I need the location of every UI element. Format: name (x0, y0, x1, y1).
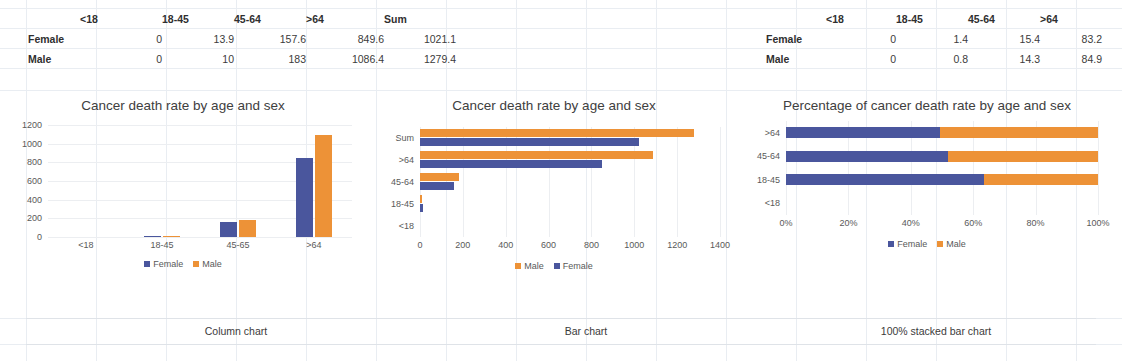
xtick-100%: 100% (1086, 218, 1109, 228)
cell-female-pct-18-45[interactable]: 1.4 (896, 29, 968, 49)
xtick-600: 600 (541, 240, 556, 250)
legend-swatch-male (515, 263, 521, 269)
cell-female-pct-over64[interactable]: 83.2 (1040, 29, 1102, 49)
bar-male->64 (315, 135, 332, 236)
cell-female-sum[interactable]: 1021.1 (384, 29, 456, 49)
table-row[interactable]: Male 0 10 183 1086.4 1279.4 (28, 49, 456, 69)
bar-female->64 (296, 158, 313, 237)
cell-female-18-45[interactable]: 13.9 (162, 29, 234, 49)
cell-male-pct-under18[interactable]: 0 (826, 49, 896, 69)
legend-item-female: Female (888, 239, 927, 249)
gridline-x-1200 (677, 127, 678, 237)
segment-female-45-64 (786, 151, 948, 162)
col-header-45-64: 45-64 (968, 9, 1040, 29)
xtick-40%: 40% (902, 218, 920, 228)
column-chart[interactable]: Cancer death rate by age and sex 1200100… (8, 98, 358, 269)
xtick-1000: 1000 (624, 240, 644, 250)
bar-female-45-65 (220, 222, 237, 237)
col-header-under18: <18 (826, 9, 896, 29)
bar-chart[interactable]: Cancer death rate by age and sex 0200400… (378, 98, 730, 271)
xtick-45-65: 45-65 (226, 240, 249, 250)
cell-male-pct-18-45[interactable]: 0.8 (896, 49, 968, 69)
table-row[interactable]: Female 0 13.9 157.6 849.6 1021.1 (28, 29, 456, 49)
xtick-20%: 20% (839, 218, 857, 228)
table-row[interactable]: Male 0 0.8 14.3 84.9 (766, 49, 1102, 69)
col-header-sum: Sum (384, 9, 456, 29)
legend-item-male: Male (937, 239, 966, 249)
bar-female->64 (420, 160, 602, 168)
segment-female->64 (786, 127, 940, 138)
cell-female-over64[interactable]: 849.6 (306, 29, 384, 49)
cell-male-45-64[interactable]: 183 (234, 49, 306, 69)
ytick-1200: 1200 (8, 120, 42, 130)
table-corner-cell (28, 9, 80, 29)
xtick-1400: 1400 (710, 240, 730, 250)
table-corner-cell (766, 9, 826, 29)
col-header-under18: <18 (80, 9, 162, 29)
ytick-600: 600 (8, 176, 42, 186)
xtick-0%: 0% (779, 218, 792, 228)
cell-female-pct-under18[interactable]: 0 (826, 29, 896, 49)
legend-label-male: Male (946, 239, 966, 249)
cancer-death-rate-percentage-table[interactable]: <18 18-45 45-64 >64 Female 0 1.4 15.4 83… (766, 9, 1102, 69)
cell-male-under18[interactable]: 0 (80, 49, 162, 69)
segment-male-45-64 (948, 151, 1098, 162)
ytick-200: 200 (8, 213, 42, 223)
cell-male-18-45[interactable]: 10 (162, 49, 234, 69)
cell-female-45-64[interactable]: 157.6 (234, 29, 306, 49)
bar-female-18-45 (420, 204, 423, 212)
cell-male-pct-over64[interactable]: 84.9 (1040, 49, 1102, 69)
legend-item-female: Female (554, 261, 593, 271)
caption-stacked-bar-chart: 100% stacked bar chart (796, 318, 1076, 344)
caption-row-bottom-border (26, 344, 1096, 345)
bar-male-45-64 (420, 173, 459, 181)
xtick-800: 800 (584, 240, 599, 250)
legend-label-male: Male (202, 259, 222, 269)
cell-male-sum[interactable]: 1279.4 (384, 49, 456, 69)
ytick-0: 0 (8, 232, 42, 242)
ycat->64: >64 (378, 155, 414, 165)
xtick-1200: 1200 (667, 240, 687, 250)
row-label-female: Female (28, 29, 80, 49)
table-header-row: <18 18-45 45-64 >64 Sum (28, 9, 456, 29)
cell-female-under18[interactable]: 0 (80, 29, 162, 49)
cell-female-pct-45-64[interactable]: 15.4 (968, 29, 1040, 49)
ycat-Sum: Sum (378, 133, 414, 143)
cell-male-pct-45-64[interactable]: 14.3 (968, 49, 1040, 69)
row-label-male: Male (766, 49, 826, 69)
legend-label-female: Female (897, 239, 927, 249)
row-label-female: Female (766, 29, 826, 49)
caption-column-chart: Column chart (96, 318, 376, 344)
caption-row: Column chart Bar chart 100% stacked bar … (0, 318, 1122, 344)
legend-swatch-female (888, 241, 894, 247)
bar-chart-plot: 0200400600800100012001400Sum>6445-6418-4… (378, 127, 730, 255)
xtick-18-45: 18-45 (150, 240, 173, 250)
gridline-y-0 (48, 237, 352, 238)
ycat-45-64: 45-64 (742, 151, 780, 161)
bar-female-18-45 (144, 236, 161, 237)
bar-chart-legend: MaleFemale (378, 261, 730, 271)
ytick-400: 400 (8, 195, 42, 205)
ycat-18-45: 18-45 (742, 175, 780, 185)
xtick-0: 0 (417, 240, 422, 250)
col-header-over64: >64 (1040, 9, 1102, 29)
cancer-death-rate-table[interactable]: <18 18-45 45-64 >64 Sum Female 0 13.9 15… (28, 9, 456, 69)
bar-male->64 (420, 151, 653, 159)
ycat-<18: <18 (378, 221, 414, 231)
segment-male-18-45 (984, 174, 1098, 185)
gridline-y-1200 (48, 125, 352, 126)
legend-label-male: Male (524, 261, 544, 271)
cell-male-over64[interactable]: 1086.4 (306, 49, 384, 69)
col-header-18-45: 18-45 (162, 9, 234, 29)
col-header-45-64: 45-64 (234, 9, 306, 29)
bar-female-45-64 (420, 182, 454, 190)
table-header-row: <18 18-45 45-64 >64 (766, 9, 1102, 29)
legend-label-female: Female (563, 261, 593, 271)
stacked-bar-chart[interactable]: Percentage of cancer death rate by age a… (742, 98, 1112, 249)
bar-female-Sum (420, 138, 639, 146)
table-row[interactable]: Female 0 1.4 15.4 83.2 (766, 29, 1102, 49)
legend-swatch-female (554, 263, 560, 269)
gridline-x-1400 (720, 127, 721, 237)
column-chart-plot: 120010008006004002000<1818-4545-65>64 (8, 125, 358, 253)
ycat->64: >64 (742, 128, 780, 138)
